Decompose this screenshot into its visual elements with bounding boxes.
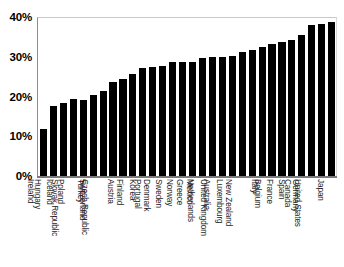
bar [298,35,305,176]
x-axis-baseline [37,176,337,178]
bar [259,47,266,176]
bar-slot [287,17,297,176]
x-tick-label: Denmark [141,179,149,212]
bar-slot [207,17,217,176]
x-tick-label: Portugal [133,179,141,209]
bar-slot [247,17,257,176]
bar [80,100,87,176]
bar-slot [217,17,227,176]
x-tick-label: Netherlands [186,179,194,222]
bar-slot [307,17,317,176]
bar [209,57,216,176]
bar [288,40,295,176]
x-tick-label: Japan [316,179,324,201]
bar [239,52,246,176]
bar [169,62,176,176]
bar-slot [78,17,88,176]
bar-slot [168,17,178,176]
bar-slot [227,17,237,176]
bar [50,106,57,176]
bar-slot [317,17,327,176]
bar-slot [158,17,168,176]
bar-slot [267,17,277,176]
x-label-slot: Luxembourg [237,179,247,265]
bar-slot [48,17,58,176]
x-tick-label: New Zealand [224,179,232,226]
y-axis: 0%10%20%30%40% [0,0,36,185]
bar-slot [148,17,158,176]
bar-slot [39,17,49,176]
x-tick-label: Sweden [153,179,161,208]
bar [60,103,67,176]
x-tick-label: Austria [106,179,114,204]
bar-slot [297,17,307,176]
bar-slot [257,17,267,176]
bar-slot [58,17,68,176]
bar-slot [128,17,138,176]
bar [159,66,166,176]
x-tick-label: Finland [115,179,123,205]
bar [219,57,226,176]
x-tick-label: Hungary [33,179,41,209]
bar [119,79,126,176]
bar [318,24,325,176]
bar-slot [108,17,118,176]
bar [139,68,146,176]
bar-slot [237,17,247,176]
bar-slot [198,17,208,176]
x-tick-label: France [265,179,273,204]
x-tick-label: Belgium [253,179,261,208]
bar [90,95,97,176]
y-tick-label: 40% [10,11,32,23]
y-tick-label: 10% [10,130,32,142]
x-tick-label: Norway [164,179,172,206]
bar [308,25,315,176]
y-tick-label: 30% [10,51,32,63]
x-tick-label: Slovak Republic [50,179,58,236]
bar-slot [138,17,148,176]
bars-container [39,17,337,176]
bar [189,62,196,176]
bar [70,99,77,176]
bar [278,42,285,176]
bar [199,58,206,176]
bar-slot [68,17,78,176]
x-tick-label: United Kingdom [199,179,207,236]
bar-slot [178,17,188,176]
bar [100,91,107,176]
bar [249,50,256,176]
x-label-slot: Turkey [88,179,98,265]
bar [149,67,156,176]
bar [129,74,136,176]
x-tick-label: United States [293,179,301,227]
x-label-slot: Japan [327,179,337,265]
bar-slot [327,17,337,176]
bar [229,56,236,176]
bar-slot [118,17,128,176]
bar-chart-figure: 0%10%20%30%40% IrelandHungaryIcelandPola… [0,0,344,267]
bar [268,44,275,176]
x-tick-label: Greece [174,179,182,205]
bar [40,129,47,176]
x-tick-label: Czech Republic [80,179,88,235]
bar-slot [88,17,98,176]
bar [109,82,116,176]
x-axis: IrelandHungaryIcelandPolandSlovak Republ… [39,179,337,265]
x-tick-label: Luxembourg [215,179,223,224]
bar-slot [277,17,287,176]
y-tick-label: 20% [10,91,32,103]
bar-slot [98,17,108,176]
bar [179,62,186,176]
bar-slot [188,17,198,176]
bar [328,22,335,176]
